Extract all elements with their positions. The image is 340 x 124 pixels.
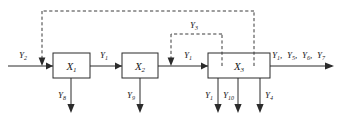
signal-label-down-x1: Y8 <box>58 90 66 101</box>
signal-label-down-x2: Y9 <box>127 90 135 101</box>
arrowhead-into-x1 <box>46 63 53 70</box>
signal-label-down-x3-b: Y10 <box>223 90 234 101</box>
downward-outputs <box>67 78 263 113</box>
signal-label-output-right: Y1, Y5, Y6, Y7 <box>272 50 326 61</box>
arrowhead-down-x3-a <box>214 104 221 113</box>
svg-text:Y7: Y7 <box>317 50 326 61</box>
signal-label-down-x3-c: Y4 <box>265 90 273 101</box>
arrowhead-into-x3 <box>201 63 208 70</box>
signal-label-down-x3-a: Y1 <box>205 90 213 101</box>
signal-label-input-left: Y2 <box>19 50 27 61</box>
arrowhead-into-x2 <box>115 63 122 70</box>
arrowhead-down-x3-b <box>234 104 241 113</box>
signal-label-x2-x3: Y1 <box>184 50 192 61</box>
signal-label-x1-x2: Y1 <box>100 50 108 61</box>
arrowhead-down-x2 <box>136 104 143 113</box>
svg-text:Y1,: Y1, <box>272 50 282 61</box>
arrowhead-output-right <box>325 62 334 69</box>
block-flow-diagram: X1 X2 X3 <box>0 0 340 124</box>
arrowhead-down-x1 <box>67 104 74 113</box>
signal-label-feedback-inner: Y3 <box>190 20 198 31</box>
arrowhead-down-x3-c <box>256 104 263 113</box>
arrowhead-feedback-inner <box>168 58 175 67</box>
svg-text:Y6,: Y6, <box>302 50 312 61</box>
arrowhead-feedback-outer <box>39 58 46 67</box>
svg-text:Y5,: Y5, <box>287 50 297 61</box>
diagram-canvas: X1 X2 X3 <box>0 0 340 124</box>
